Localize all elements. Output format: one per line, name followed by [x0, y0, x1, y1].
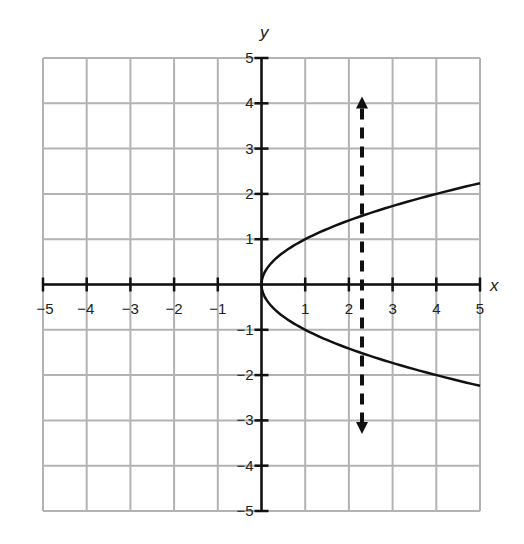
x-tick-label: 2 — [345, 300, 353, 317]
y-axis-label: y — [259, 23, 270, 42]
y-tick-label: −3 — [236, 411, 253, 428]
x-tick-label: −1 — [209, 300, 226, 317]
y-tick-label: −4 — [236, 457, 253, 474]
x-tick-label: 5 — [476, 300, 484, 317]
arrow-down-icon — [356, 422, 368, 434]
x-tick-label: −3 — [122, 300, 139, 317]
graph-canvas: −5−4−3−2−11234554321−1−2−3−4−5 x y — [0, 0, 524, 544]
y-tick-label: −1 — [236, 321, 253, 338]
y-tick-label: 4 — [245, 94, 253, 111]
x-tick-label: 1 — [301, 300, 309, 317]
x-tick-label: 3 — [388, 300, 396, 317]
x-tick-label: 4 — [432, 300, 440, 317]
y-tick-label: 2 — [245, 185, 253, 202]
y-tick-label: 5 — [245, 49, 253, 66]
x-tick-label: −5 — [36, 300, 53, 317]
y-tick-label: 3 — [245, 140, 253, 157]
y-tick-label: −2 — [236, 366, 253, 383]
y-tick-label: −5 — [236, 502, 253, 519]
x-tick-label: −2 — [166, 300, 183, 317]
plotted-series — [262, 97, 481, 434]
x-axis-label: x — [489, 276, 499, 295]
x-tick-label: −4 — [77, 300, 94, 317]
y-tick-label: 1 — [245, 230, 253, 247]
